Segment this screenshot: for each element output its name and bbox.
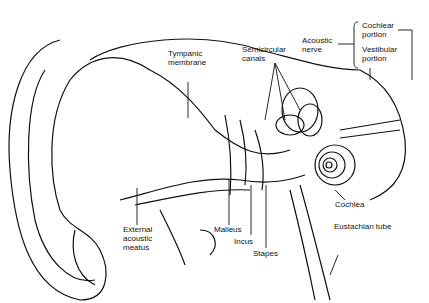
label-tympanic-membrane: Tympanic membrane [168, 49, 206, 67]
label-semicircular-canals: Semicircular canals [242, 45, 286, 63]
label-vestibular-portion: Vestibular portion [362, 45, 397, 63]
label-eustachian-tube: Eustachian tube [334, 222, 391, 231]
label-stapes: Stapes [253, 249, 278, 258]
label-incus: Incus [234, 237, 253, 246]
label-cochlear-portion: Cochlear portion [362, 21, 394, 39]
label-acoustic-nerve: Acoustic nerve [302, 36, 332, 54]
label-cochlea: Cochlea [335, 200, 364, 209]
label-malleus: Malleus [214, 225, 242, 234]
label-external-acoustic-meatus: External acoustic meatus [123, 225, 152, 252]
